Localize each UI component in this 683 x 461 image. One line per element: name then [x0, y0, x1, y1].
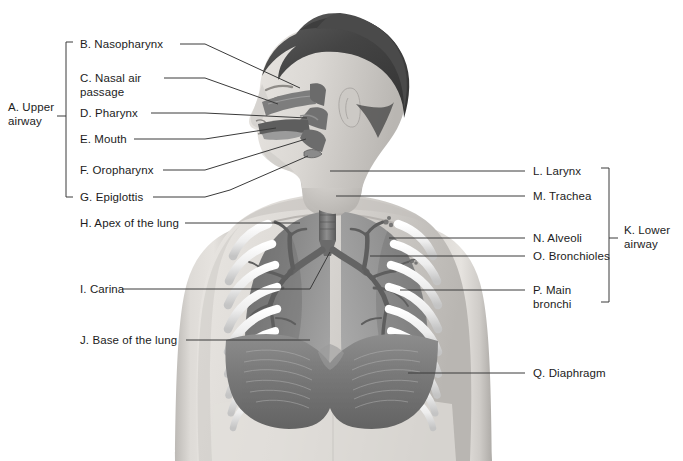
label-b-nasopharynx: B. Nasopharynx — [80, 38, 163, 52]
label-h-apex-of-lung: H. Apex of the lung — [80, 217, 179, 231]
label-j-base-of-lung: J. Base of the lung — [80, 334, 177, 348]
group-label-lower-airway: K. Lower airway — [624, 224, 680, 251]
label-c-nasal-air-passage: C. Nasal air passage — [80, 72, 141, 99]
head-profile — [249, 13, 409, 214]
figure-canvas: A. Upper airway B. Nasopharynx C. Nasal … — [0, 0, 683, 461]
label-g-epiglottis: G. Epiglottis — [80, 191, 143, 205]
label-f-oropharynx: F. Oropharynx — [80, 164, 154, 178]
label-m-trachea: M. Trachea — [533, 190, 592, 204]
label-i-carina: I. Carina — [80, 283, 124, 297]
label-q-diaphragm: Q. Diaphragm — [533, 367, 606, 381]
label-n-alveoli: N. Alveoli — [533, 232, 582, 246]
label-p-main-bronchi: P. Main bronchi — [533, 284, 571, 311]
label-e-mouth: E. Mouth — [80, 133, 127, 147]
label-o-bronchioles: O. Bronchioles — [533, 250, 610, 264]
label-d-pharynx: D. Pharynx — [80, 107, 138, 121]
anatomy-illustration — [0, 0, 683, 461]
label-l-larynx: L. Larynx — [533, 165, 581, 179]
group-label-upper-airway: A. Upper airway — [8, 101, 70, 128]
